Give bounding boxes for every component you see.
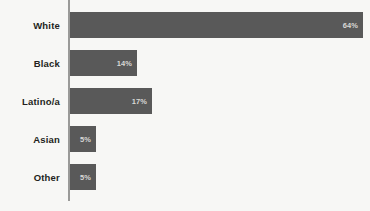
bar-white: 64% xyxy=(70,12,363,38)
bar-value-other: 5% xyxy=(80,173,91,182)
bar-row: Latino/a 17% xyxy=(0,88,370,114)
bar-value-black: 14% xyxy=(117,59,132,68)
bar-row: Asian 5% xyxy=(0,126,370,152)
bar-chart: White 64% Black 14% Latino/a 17% Asian 5… xyxy=(0,0,370,211)
bar-latino: 17% xyxy=(70,88,152,114)
bar-row: Black 14% xyxy=(0,50,370,76)
bar-black: 14% xyxy=(70,50,137,76)
category-label-white: White xyxy=(0,20,60,31)
bar-row: Other 5% xyxy=(0,164,370,190)
category-label-asian: Asian xyxy=(0,134,60,145)
bar-other: 5% xyxy=(70,164,96,190)
bar-asian: 5% xyxy=(70,126,96,152)
bar-value-white: 64% xyxy=(343,21,358,30)
category-label-latino: Latino/a xyxy=(0,96,60,107)
category-label-black: Black xyxy=(0,58,60,69)
plot-area: White 64% Black 14% Latino/a 17% Asian 5… xyxy=(0,0,370,211)
bar-value-asian: 5% xyxy=(80,135,91,144)
bar-value-latino: 17% xyxy=(132,97,147,106)
category-label-other: Other xyxy=(0,172,60,183)
bar-row: White 64% xyxy=(0,12,370,38)
